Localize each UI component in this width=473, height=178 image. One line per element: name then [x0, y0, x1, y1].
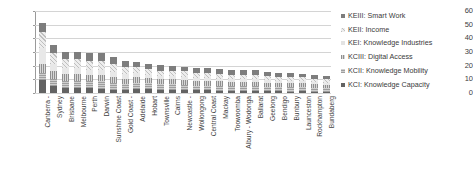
x-tick-label: Adelaide	[139, 70, 146, 96]
bar-segment-kei	[50, 64, 57, 72]
x-tick-label: Melbourne	[80, 65, 87, 96]
x-tick-label: Bunbury	[293, 71, 300, 96]
x-tick-label: Launceston	[305, 62, 312, 96]
x-tick-label: Geelong	[269, 71, 276, 96]
x-tick-label: Brisbane	[68, 70, 75, 96]
x-axis-labels: Canberra -SydneyBrisbaneMelbournePerthDa…	[35, 96, 331, 176]
legend-item[interactable]: KCI: Knowledge Capacity	[341, 78, 471, 92]
legend-swatch-keii-icon	[341, 28, 345, 32]
legend-item[interactable]: KEI: Knowledge Industries	[341, 37, 471, 51]
bar-segment-keiii	[74, 52, 81, 59]
legend-label: KCII: Knowledge Mobility	[348, 67, 428, 75]
bar-segment-keiii	[86, 53, 93, 61]
legend-swatch-kci-icon	[341, 83, 345, 87]
legend-item[interactable]: KEII: Income	[341, 23, 471, 37]
legend-item[interactable]: KCII: Knowledge Mobility	[341, 64, 471, 78]
legend-label: KEIII: Smart Work	[348, 12, 405, 20]
legend-label: KCI: Knowledge Capacity	[348, 81, 430, 89]
bar-segment-keii	[39, 32, 46, 48]
x-tick-label: Cairns	[174, 77, 181, 96]
legend-swatch-keiii-icon	[341, 14, 345, 18]
x-tick-label: Ballarat	[257, 74, 264, 96]
legend-item[interactable]: KCIII: Digital Access	[341, 50, 471, 64]
bar-segment-keiii	[62, 52, 69, 59]
bar-segment-keiii	[98, 53, 105, 61]
bar-segment-keiii	[39, 23, 46, 31]
legend-label: KCIII: Digital Access	[348, 53, 413, 61]
x-tick-label: Central Coast	[210, 56, 217, 96]
bar-segment-keii	[50, 53, 57, 64]
bar-segment-keii	[98, 61, 105, 70]
chart-legend: KEIII: Smart WorkKEII: IncomeKEI: Knowle…	[341, 9, 471, 92]
x-tick-label: Townsville	[163, 66, 170, 96]
x-tick-label: Bendigo	[281, 72, 288, 96]
x-tick-label: Mackay	[222, 73, 229, 96]
bar-segment-keii	[62, 59, 69, 68]
x-tick-label: Perth	[91, 80, 98, 96]
x-tick-label: Albury - Wodonga	[245, 43, 252, 96]
bar-segment-keiii	[50, 45, 57, 53]
legend-label: KEI: Knowledge Industries	[348, 39, 432, 47]
bar-segment-keii	[86, 61, 93, 70]
x-tick-label: Sunshine Coast	[115, 49, 122, 96]
stacked-bar-chart: 0102030405060 Canberra -SydneyBrisbaneMe…	[0, 0, 473, 178]
x-tick-label: Darwin	[103, 75, 110, 96]
legend-swatch-kei-icon	[341, 41, 345, 45]
x-tick-label: Newcastle -	[186, 62, 193, 96]
x-tick-label: Hobart	[151, 76, 158, 96]
x-tick-label: Canberra -	[44, 64, 51, 96]
bar-segment-kei	[39, 48, 46, 64]
x-tick-label: Toowoomba	[234, 60, 241, 96]
legend-label: KEII: Income	[348, 26, 389, 34]
x-tick-label: Sydney	[56, 74, 63, 96]
legend-swatch-kciii-icon	[341, 55, 345, 59]
x-tick-label: Wollongong	[198, 61, 205, 96]
x-tick-label: Rockhampton	[316, 55, 323, 96]
x-tick-label: Bundaberg	[328, 64, 335, 96]
legend-swatch-kcii-icon	[341, 69, 345, 73]
x-tick-label: Gold Coast -	[127, 59, 134, 96]
legend-item[interactable]: KEIII: Smart Work	[341, 9, 471, 23]
